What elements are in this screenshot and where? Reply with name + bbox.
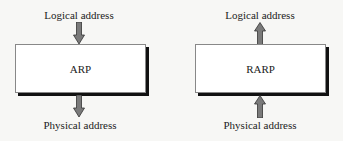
arp-box: ARP — [15, 44, 146, 93]
rarp-box-label: RARP — [246, 63, 275, 75]
rarp-box: RARP — [195, 44, 326, 93]
up-arrow-icon — [254, 22, 266, 45]
arp-input-label: Logical address — [44, 9, 113, 21]
rarp-input-label: Physical address — [223, 119, 296, 131]
down-arrow-icon — [73, 95, 85, 118]
arp-box-label: ARP — [70, 63, 91, 75]
up-arrow-icon — [254, 95, 266, 118]
down-arrow-icon — [73, 22, 85, 45]
arp-output-label: Physical address — [43, 119, 116, 131]
rarp-output-label: Logical address — [225, 9, 294, 21]
